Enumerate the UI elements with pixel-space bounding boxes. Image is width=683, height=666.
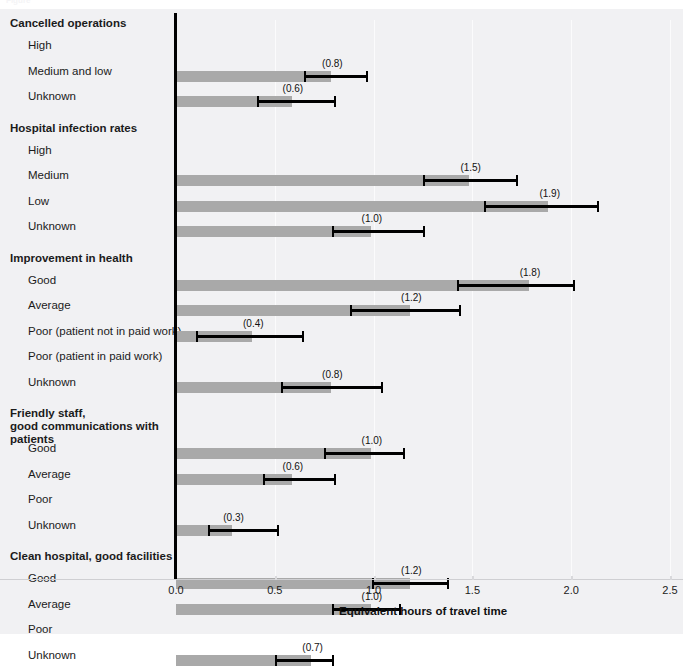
error-bar-cap — [423, 175, 425, 186]
error-bar-cap — [597, 201, 599, 212]
error-bar-cap — [334, 474, 336, 485]
row-label: High — [28, 144, 52, 157]
error-bar-cap — [332, 655, 334, 666]
group-label: Hospital infection rates — [10, 122, 137, 135]
x-tick — [670, 576, 672, 580]
error-bar — [372, 582, 449, 585]
row-label: Average — [28, 468, 71, 481]
value-label: (1.9) — [539, 188, 560, 199]
error-bar — [275, 659, 334, 662]
value-label: (0.6) — [283, 461, 304, 472]
zero-axis-line — [174, 13, 177, 579]
error-bar — [484, 205, 599, 208]
caption-text: Figure — [6, 0, 30, 5]
gridline — [670, 20, 671, 579]
value-label: (1.0) — [362, 435, 383, 446]
error-bar-cap — [381, 382, 383, 393]
x-axis-title: Equivalent hours of travel time — [339, 605, 507, 617]
row-label: Poor (patient in paid work) — [28, 350, 162, 363]
x-tick-label: 1.0 — [366, 584, 381, 596]
error-bar-cap — [403, 448, 405, 459]
row-label: Poor — [28, 623, 52, 636]
row-label: High — [28, 39, 52, 52]
group-label: Cancelled operations — [10, 17, 126, 30]
row-label: Unknown — [28, 220, 76, 233]
error-bar-cap — [196, 331, 198, 342]
value-label: (1.2) — [401, 565, 422, 576]
gridline — [472, 20, 473, 579]
error-bar-cap — [334, 96, 336, 107]
x-tick-label: 0.5 — [267, 584, 282, 596]
group-label: Clean hospital, good facilities — [10, 550, 172, 563]
error-bar-cap — [332, 604, 334, 615]
error-bar-cap — [263, 474, 265, 485]
error-bar-cap — [484, 201, 486, 212]
value-label: (1.8) — [520, 267, 541, 278]
error-bar-cap — [516, 175, 518, 186]
row-label: Medium and low — [28, 65, 112, 78]
value-label: (1.2) — [401, 292, 422, 303]
value-label: (0.4) — [243, 318, 264, 329]
error-bar — [196, 335, 305, 338]
x-tick-label: 2.5 — [662, 584, 677, 596]
value-label: (0.3) — [223, 512, 244, 523]
row-label: Medium — [28, 169, 69, 182]
plot-panel: Cancelled operationsHighMedium and low(0… — [0, 9, 683, 634]
error-bar-cap — [350, 305, 352, 316]
value-label: (1.0) — [362, 213, 383, 224]
error-bar-cap — [324, 448, 326, 459]
value-label: (0.8) — [322, 369, 343, 380]
value-label: (0.6) — [283, 83, 304, 94]
row-label: Average — [28, 299, 71, 312]
x-tick — [571, 576, 573, 580]
x-tick — [275, 576, 277, 580]
x-tick-label: 0.0 — [168, 584, 183, 596]
error-bar — [423, 179, 518, 182]
error-bar — [324, 452, 405, 455]
error-bar-cap — [457, 280, 459, 291]
row-label: Unknown — [28, 90, 76, 103]
group-label: Improvement in health — [10, 252, 133, 265]
row-label: Good — [28, 274, 56, 287]
error-bar-cap — [257, 96, 259, 107]
error-bar — [457, 284, 576, 287]
row-label: Average — [28, 598, 71, 611]
x-tick-label: 2.0 — [564, 584, 579, 596]
group-label: Friendly staff,good communications with … — [10, 407, 160, 446]
row-label: Poor — [28, 493, 52, 506]
x-tick — [374, 576, 376, 580]
error-bar — [304, 75, 367, 78]
error-bar — [208, 529, 279, 532]
error-bar-cap — [277, 525, 279, 536]
error-bar — [332, 230, 425, 233]
error-bar — [281, 386, 384, 389]
row-label: Low — [28, 195, 49, 208]
error-bar — [263, 478, 336, 481]
row-label: Unknown — [28, 519, 76, 532]
error-bar-cap — [281, 382, 283, 393]
error-bar-cap — [304, 71, 306, 82]
error-bar-cap — [366, 71, 368, 82]
error-bar-cap — [302, 331, 304, 342]
x-tick — [472, 576, 474, 580]
error-bar-cap — [332, 226, 334, 237]
value-label: (0.8) — [322, 58, 343, 69]
row-label: Good — [28, 442, 56, 455]
row-label: Poor (patient not in paid work) — [28, 325, 181, 338]
error-bar — [350, 309, 461, 312]
error-bar-cap — [573, 280, 575, 291]
error-bar-cap — [208, 525, 210, 536]
x-tick-label: 1.5 — [465, 584, 480, 596]
value-label: (1.5) — [460, 162, 481, 173]
value-label: (0.7) — [302, 642, 323, 653]
cropped-caption: Figure — [0, 0, 683, 9]
error-bar — [257, 100, 336, 103]
error-bar-cap — [423, 226, 425, 237]
row-label: Unknown — [28, 649, 76, 662]
row-label: Unknown — [28, 376, 76, 389]
plot-area: Cancelled operationsHighMedium and low(0… — [0, 9, 683, 634]
error-bar-cap — [275, 655, 277, 666]
x-axis-line — [0, 579, 683, 580]
gridline — [571, 20, 572, 579]
